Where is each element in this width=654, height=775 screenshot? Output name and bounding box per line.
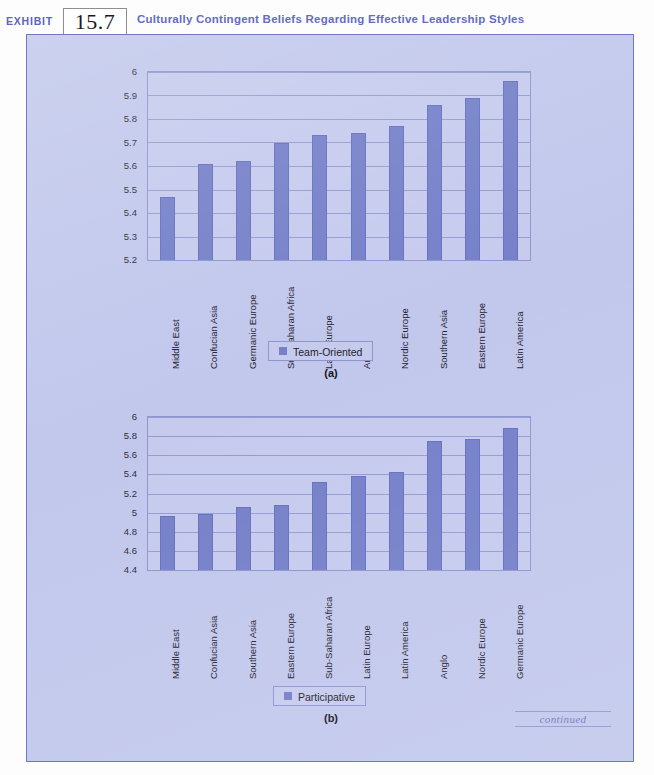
bar	[312, 135, 327, 260]
y-tick-label: 5	[132, 506, 137, 517]
bar	[389, 126, 404, 260]
plot-area-b	[147, 416, 531, 571]
panel-caption-a: (a)	[27, 367, 635, 379]
legend-swatch-icon-b	[284, 692, 292, 700]
x-tick-label: Latin Europe	[361, 625, 372, 679]
bar	[427, 105, 442, 260]
bar	[274, 505, 289, 570]
bar	[465, 439, 480, 570]
y-tick-label: 5.8	[124, 113, 137, 124]
x-tick-label: Germanic Europe	[247, 295, 258, 369]
x-tick-label: Eastern Europe	[476, 303, 487, 369]
y-tick-label: 5.7	[124, 136, 137, 147]
plot-wrap-b: 65.85.65.45.254.84.64.4	[111, 416, 531, 571]
bar	[160, 197, 175, 260]
x-tick-label: Middle East	[170, 629, 181, 679]
y-tick-label: 5.3	[124, 230, 137, 241]
x-tick-label: Nordic Europe	[476, 618, 487, 679]
bar	[236, 161, 251, 260]
chart-panel-b: 65.85.65.45.254.84.64.4 Middle EastConfu…	[27, 380, 635, 740]
y-tick-label: 6	[132, 66, 137, 77]
exhibit-word-label: EXHIBIT	[6, 15, 53, 27]
gridline	[148, 417, 530, 418]
y-tick-label: 4.4	[124, 564, 137, 575]
bar	[351, 133, 366, 260]
x-tick-label: Southern Asia	[247, 620, 258, 679]
y-tick-label: 4.8	[124, 525, 137, 536]
exhibit-number-box: 15.7	[63, 8, 127, 35]
bar	[427, 441, 442, 570]
chart-panel-a: 65.95.85.75.65.55.45.35.2 Middle EastCon…	[27, 35, 635, 395]
bar	[160, 516, 175, 571]
legend-swatch-icon-a	[279, 347, 287, 355]
y-tick-label: 5.2	[124, 254, 137, 265]
y-tick-label: 6	[132, 411, 137, 422]
bar	[198, 514, 213, 570]
bar	[274, 143, 289, 261]
plot-wrap-a: 65.95.85.75.65.55.45.35.2	[111, 71, 531, 261]
x-tick-label: Anglo	[438, 655, 449, 679]
continued-note: continued	[515, 711, 611, 727]
x-tick-label: Latin America	[514, 311, 525, 369]
plot-area-a	[147, 71, 531, 261]
y-axis-b: 65.85.65.45.254.84.64.4	[111, 416, 141, 571]
gridline	[148, 72, 530, 73]
x-tick-label: Southern Asia	[438, 310, 449, 369]
gridline	[148, 95, 530, 96]
bar	[389, 472, 404, 570]
legend-a: Team-Oriented	[268, 341, 373, 361]
x-axis-labels-b: Middle EastConfucian AsiaSouthern AsiaEa…	[147, 575, 531, 685]
exhibit-title: Culturally Contingent Beliefs Regarding …	[137, 13, 524, 25]
y-tick-label: 5.5	[124, 183, 137, 194]
legend-label-b: Participative	[298, 691, 355, 703]
x-tick-label: Nordic Europe	[399, 308, 410, 369]
legend-b: Participative	[273, 686, 366, 706]
y-tick-label: 5.9	[124, 89, 137, 100]
bar	[236, 507, 251, 570]
y-tick-label: 4.6	[124, 544, 137, 555]
y-tick-label: 5.2	[124, 487, 137, 498]
y-tick-label: 5.8	[124, 430, 137, 441]
bar	[351, 476, 366, 570]
exhibit-page-panel: 65.95.85.75.65.55.45.35.2 Middle EastCon…	[26, 34, 634, 762]
exhibit-number: 15.7	[75, 9, 116, 34]
x-tick-label: Confucian Asia	[208, 306, 219, 369]
x-tick-label: Confucian Asia	[208, 616, 219, 679]
y-tick-label: 5.4	[124, 468, 137, 479]
x-tick-label: Latin America	[399, 621, 410, 679]
bar	[503, 428, 518, 570]
x-tick-label: Sub-Saharan Africa	[323, 597, 334, 679]
bar	[312, 482, 327, 570]
x-tick-label: Germanic Europe	[514, 605, 525, 679]
y-axis-a: 65.95.85.75.65.55.45.35.2	[111, 71, 141, 261]
bar	[465, 98, 480, 260]
y-tick-label: 5.6	[124, 160, 137, 171]
x-tick-label: Eastern Europe	[285, 613, 296, 679]
y-tick-label: 5.4	[124, 207, 137, 218]
bar	[503, 81, 518, 260]
x-tick-label: Middle East	[170, 319, 181, 369]
y-tick-label: 5.6	[124, 449, 137, 460]
legend-label-a: Team-Oriented	[293, 346, 362, 358]
gridline	[148, 436, 530, 437]
bar	[198, 164, 213, 260]
